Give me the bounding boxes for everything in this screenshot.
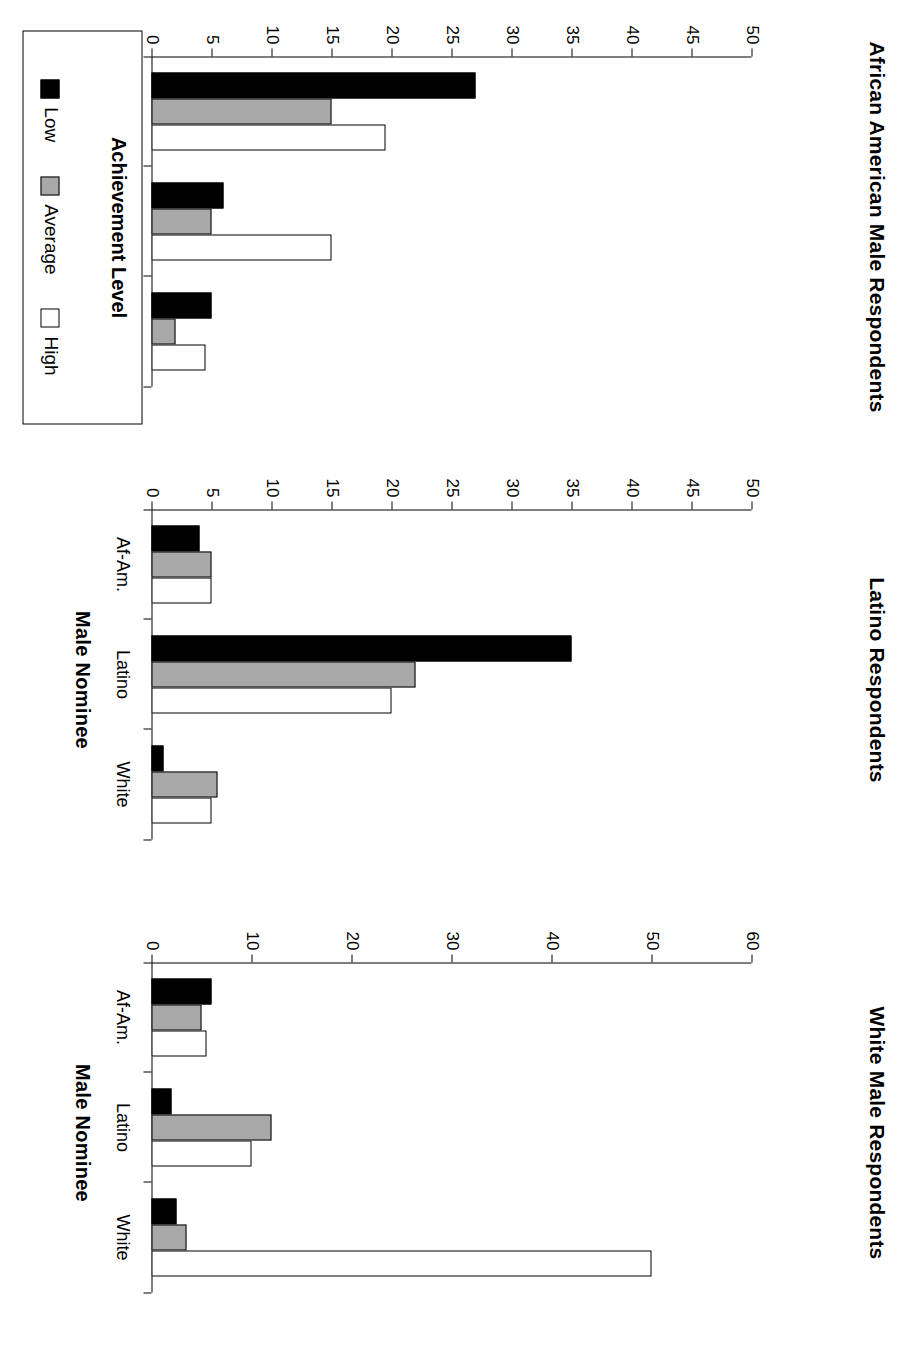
value-axis-tick bbox=[271, 501, 272, 509]
value-axis-tick bbox=[351, 954, 352, 962]
legend-item: High bbox=[39, 308, 61, 375]
value-axis-tick-label: 45 bbox=[681, 2, 701, 44]
bar-low bbox=[151, 292, 211, 318]
category-axis-tick bbox=[143, 962, 151, 963]
value-axis-tick bbox=[271, 48, 272, 56]
value-axis-tick-label: 0 bbox=[141, 908, 161, 950]
bar-high bbox=[151, 1140, 251, 1166]
value-axis-tick bbox=[651, 954, 652, 962]
bar-group: White bbox=[151, 729, 751, 839]
legend-label: High bbox=[39, 336, 61, 375]
bar-average bbox=[151, 551, 211, 577]
plot-area: 05101520253035404550Af-Am.LatinoWhite bbox=[151, 56, 751, 386]
bar-high bbox=[151, 577, 211, 603]
legend-item: Low bbox=[39, 79, 61, 142]
value-axis-tick-label: 40 bbox=[621, 2, 641, 44]
bar-average bbox=[151, 1004, 201, 1030]
bar-high bbox=[151, 234, 331, 260]
legend-items: LowAverageHigh bbox=[39, 31, 61, 423]
value-axis-tick bbox=[211, 501, 212, 509]
category-label: White bbox=[111, 729, 132, 839]
category-axis-tick bbox=[143, 1292, 151, 1293]
value-axis-tick-label: 40 bbox=[541, 908, 561, 950]
panel-title: Latino Respondents bbox=[862, 453, 891, 906]
chart-panel-1: African American Male Respondents0510152… bbox=[0, 0, 921, 453]
bar-low bbox=[151, 1088, 171, 1114]
bar-low bbox=[151, 635, 571, 661]
value-axis-tick bbox=[691, 48, 692, 56]
value-axis-tick-label: 10 bbox=[261, 455, 281, 497]
bar-high bbox=[151, 1250, 651, 1276]
legend-label: Average bbox=[39, 204, 61, 274]
legend-item: Average bbox=[39, 176, 61, 274]
legend-label: Low bbox=[39, 107, 61, 142]
legend-swatch-low bbox=[41, 79, 60, 98]
value-axis-tick bbox=[751, 501, 752, 509]
category-label: White bbox=[111, 1182, 132, 1292]
value-axis-tick bbox=[151, 954, 152, 962]
value-axis-tick bbox=[391, 501, 392, 509]
value-axis-tick bbox=[211, 48, 212, 56]
value-axis-tick-label: 35 bbox=[561, 455, 581, 497]
value-axis-tick-label: 25 bbox=[441, 2, 461, 44]
value-axis-tick-label: 50 bbox=[641, 908, 661, 950]
legend: Achievement LevelLowAverageHigh bbox=[22, 30, 142, 424]
category-axis-tick bbox=[143, 165, 151, 166]
legend-swatch-average bbox=[41, 176, 60, 195]
value-axis-tick bbox=[751, 954, 752, 962]
bar-high bbox=[151, 124, 385, 150]
value-axis-tick bbox=[451, 501, 452, 509]
value-axis-tick-label: 10 bbox=[261, 2, 281, 44]
category-axis-tick bbox=[143, 386, 151, 387]
category-axis-tick bbox=[143, 728, 151, 729]
figure-viewport: African American Male Respondents0510152… bbox=[0, 0, 921, 1361]
category-axis-tick bbox=[143, 1181, 151, 1182]
value-axis-tick-label: 45 bbox=[681, 455, 701, 497]
value-axis-tick-label: 15 bbox=[321, 2, 341, 44]
value-axis-tick-label: 60 bbox=[741, 908, 761, 950]
plot-area: 05101520253035404550Af-Am.LatinoWhite bbox=[151, 509, 751, 839]
legend-title: Achievement Level bbox=[106, 31, 129, 423]
value-axis-tick-label: 35 bbox=[561, 2, 581, 44]
value-axis-tick-label: 5 bbox=[201, 455, 221, 497]
bar-average bbox=[151, 661, 415, 687]
value-axis-tick-label: 5 bbox=[201, 2, 221, 44]
category-label: Latino bbox=[111, 619, 132, 729]
bar-group: Latino bbox=[151, 619, 751, 729]
value-axis-tick bbox=[511, 48, 512, 56]
bar-low bbox=[151, 978, 211, 1004]
value-axis-tick bbox=[391, 48, 392, 56]
panel-title: African American Male Respondents bbox=[862, 0, 891, 453]
value-axis-tick bbox=[571, 48, 572, 56]
value-axis-tick bbox=[151, 48, 152, 56]
bar-high bbox=[151, 1030, 206, 1056]
bar-group: Latino bbox=[151, 166, 751, 276]
bar-group: Af-Am. bbox=[151, 509, 751, 619]
bar-groups: Af-Am.LatinoWhite bbox=[151, 509, 751, 839]
bar-average bbox=[151, 771, 217, 797]
category-label: Af-Am. bbox=[111, 962, 132, 1072]
bar-low bbox=[151, 182, 223, 208]
value-axis-tick bbox=[511, 501, 512, 509]
value-axis-tick bbox=[631, 501, 632, 509]
value-axis-tick-label: 15 bbox=[321, 455, 341, 497]
category-axis-tick bbox=[143, 509, 151, 510]
value-axis-tick-label: 0 bbox=[141, 455, 161, 497]
bar-average bbox=[151, 1224, 186, 1250]
plot-area: 0102030405060Af-Am.LatinoWhite bbox=[151, 962, 751, 1292]
value-axis-tick bbox=[691, 501, 692, 509]
bar-group: Af-Am. bbox=[151, 962, 751, 1072]
category-label: Latino bbox=[111, 1072, 132, 1182]
bar-average bbox=[151, 318, 175, 344]
value-axis-tick-label: 40 bbox=[621, 455, 641, 497]
bar-groups: Af-Am.LatinoWhite bbox=[151, 962, 751, 1292]
multi-panel-bar-chart: African American Male Respondents0510152… bbox=[0, 0, 921, 1361]
value-axis-tick bbox=[251, 954, 252, 962]
value-axis-tick-label: 20 bbox=[341, 908, 361, 950]
value-axis-tick-label: 20 bbox=[381, 2, 401, 44]
value-axis-tick bbox=[451, 954, 452, 962]
value-axis-tick bbox=[331, 48, 332, 56]
category-axis-tick bbox=[143, 56, 151, 57]
legend-swatch-high bbox=[41, 308, 60, 327]
rotated-figure-stage: African American Male Respondents0510152… bbox=[0, 0, 921, 1361]
